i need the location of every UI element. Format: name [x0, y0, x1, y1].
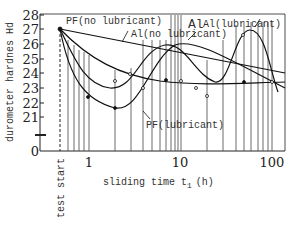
label-pf-lubricant: PF(lubricant)	[146, 120, 224, 131]
label-pf-no-lubricant: PF(no lubricant)	[66, 16, 162, 27]
svg-text:28: 28	[22, 8, 39, 23]
svg-text:26: 26	[22, 37, 39, 52]
svg-text:1: 1	[85, 155, 93, 170]
svg-text:24: 24	[22, 66, 39, 81]
label-al-lubricant: Al(lubricant)	[203, 19, 281, 30]
svg-text:10: 10	[172, 155, 189, 170]
svg-text:0: 0	[31, 144, 39, 159]
svg-text:27: 27	[22, 22, 39, 37]
svg-text:100: 100	[260, 155, 285, 170]
series-labels: PF(no lubricant) Al(no lubricant) Al Al(…	[66, 16, 281, 131]
label-al: Al	[188, 17, 204, 32]
y-tick-labels: 28 27 26 25 24 23 22 21 0	[22, 8, 39, 159]
label-al-no-lubricant: Al(no lubricant)	[131, 29, 227, 40]
x-tick-labels: 1 10 100	[85, 155, 285, 170]
svg-text:23: 23	[22, 81, 39, 96]
hardness-chart: 28 27 26 25 24 23 22 21 0 durometer hard…	[0, 0, 295, 228]
y-axis-label: durometer hardnes Hd	[5, 22, 16, 142]
svg-text:21: 21	[22, 110, 39, 125]
svg-text:25: 25	[22, 52, 39, 67]
x-axis-label: sliding time t1(h)	[103, 177, 214, 190]
svg-text:22: 22	[22, 96, 39, 111]
test-start-label: test start	[56, 158, 67, 218]
